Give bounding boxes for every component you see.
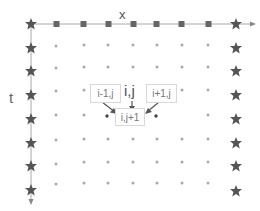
right-boundary-stars bbox=[230, 18, 242, 197]
finite-difference-grid bbox=[0, 0, 260, 211]
stencil-label-target: i,j+1 bbox=[115, 108, 145, 126]
stencil-label-right: i+1,j bbox=[146, 84, 177, 103]
stencil-dot-left bbox=[105, 114, 108, 117]
x-axis-arrow-icon bbox=[250, 22, 256, 27]
stencil-label-center: i,j bbox=[124, 82, 135, 99]
t-axis-arrow-icon bbox=[29, 199, 34, 205]
stencil-label-left: i-1,j bbox=[90, 84, 121, 103]
x-axis-label: x bbox=[119, 7, 126, 22]
stencil-dot-right bbox=[154, 114, 157, 117]
t-axis-label: t bbox=[9, 89, 13, 106]
